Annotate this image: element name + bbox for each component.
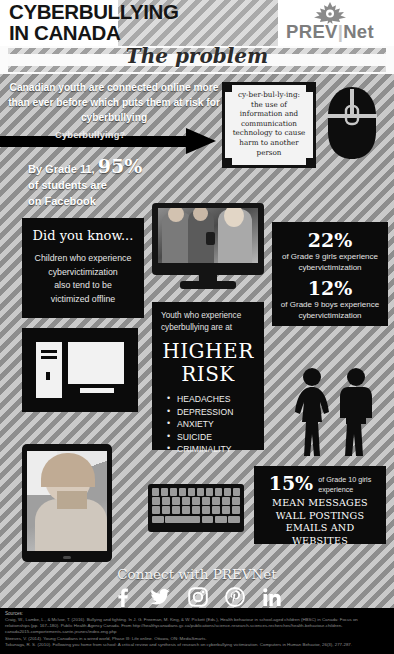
page-title: CYBERBULLYING IN CANADA [9,1,259,43]
facebook-icon[interactable] [112,587,132,607]
higher-risk-box: Youth who experience cyberbullying are a… [152,302,264,450]
monitor-screen-image [158,208,258,263]
stat-1-number: 12% [278,277,382,299]
intro-text: Canadian youth are connected online more… [8,80,220,125]
prevnet-wordmark: PREV|Net [274,23,386,41]
tower-slot-2 [41,356,57,359]
list-item: DEPRESSION [167,406,255,419]
box15-list-line3: EMAILS AND WEBSITES [261,522,379,547]
computer-mouse-icon [326,86,378,160]
sources-line: Tokunaga, R. S. (2010). Following you ho… [5,642,389,648]
tablet-screen-image [27,451,107,551]
monitor-photo [152,203,264,295]
risk-intro: Youth who experience cyberbullying are a… [161,310,255,334]
risk-headline-line1: HIGHER [161,340,255,363]
twitter-icon[interactable] [149,587,171,607]
definition-box: cy-ber-bul-ly-ing: the use of informatio… [222,82,316,168]
grade9-stats-box: 22% of Grade 9 girls experience cybervic… [272,222,388,326]
arrow-label-cyberbullying: Cyberbullying? [55,130,205,140]
dyk-line2: cybervictimization [30,266,136,280]
keyboard-row [152,516,240,524]
risk-intro-line1: Youth who experience [161,310,255,322]
box15-list: MEAN MESSAGES WALL POSTINGS EMAILS AND W… [261,497,379,547]
box15-top: 15% of Grade 10 girls experience [261,473,379,494]
tower-slot-1 [41,350,57,353]
computer-monitor-base [80,388,114,393]
grade10-girls-box: 15% of Grade 10 girls experience MEAN ME… [254,466,386,544]
risk-headline: HIGHER RISK [161,340,255,386]
grade11-line2: of students are [28,177,208,193]
section-title-the-problem: The problem [0,44,394,68]
list-item: CRIMINALITY [167,443,255,456]
box15-list-line1: MEAN MESSAGES [261,497,379,510]
grade11-number: 95% [98,155,143,177]
social-links [0,584,394,610]
stat-0-number: 22% [278,229,382,251]
logo-prev: PREV [286,21,338,42]
did-you-know-heading: Did you know... [30,228,136,243]
did-you-know-box: Did you know... Children who experience … [22,218,144,318]
female-male-silhouette-icon [288,366,384,458]
desktop-computer-icon [22,328,138,412]
did-you-know-body: Children who experience cybervictimizati… [30,252,136,306]
header: CYBERBULLYING IN CANADA PREV|Net [0,0,394,46]
box15-subtext: of Grade 10 girls experience [318,473,371,494]
box15-list-line2: WALL POSTINGS [261,510,379,523]
page-title-line2: IN CANADA [9,22,259,43]
notch-bottom-left [225,158,232,165]
keyboard-icon [148,484,244,532]
dyk-line3: also tend to be [30,279,136,293]
box15-subtext-line2: experience [318,485,353,494]
definition-body: the use of information and communication… [229,100,309,158]
sources-block: Sources: Craig, W., Lambe, L., & McIvor,… [0,608,394,654]
risk-list: HEADACHES DEPRESSION ANXIETY SUICIDE CRI… [161,393,255,456]
risk-headline-line2: RISK [161,363,255,386]
instagram-icon[interactable] [188,587,208,607]
connect-heading: Connect with PREVNet [0,566,394,582]
dyk-line4: victimized offline [30,293,136,307]
box15-subtext-line1: of Grade 10 girls [318,475,371,484]
definition-term: cy-ber-bul-ly-ing: [229,90,309,100]
linkedin-icon[interactable] [262,587,282,607]
dyk-line1: Children who experience [30,252,136,266]
stat-1-text: of Grade 9 boys experience cybervictimiz… [278,299,382,321]
notch-top-left [225,85,232,92]
prevnet-logo[interactable]: PREV|Net [274,2,386,44]
computer-monitor [68,342,124,384]
pinterest-icon[interactable] [225,587,245,607]
list-item: SUICIDE [167,431,255,444]
list-item: HEADACHES [167,393,255,406]
grade11-facebook-stat: By Grade 11, 95% of students are on Face… [28,158,208,209]
tower-power-button [46,372,50,380]
tablet-home-button [63,556,71,559]
notch-top-right [306,85,313,92]
box15-number: 15% [269,473,314,493]
logo-net: Net [343,21,374,42]
page-title-line1: CYBERBULLYING [9,1,259,22]
infographic-page: CYBERBULLYING IN CANADA PREV|Net The pro… [0,0,394,654]
notch-bottom-right [306,158,313,165]
keyboard-row [152,506,240,514]
definition-inner: cy-ber-bul-ly-ing: the use of informatio… [225,85,313,165]
monitor-base [180,281,236,289]
grade11-prefix: By Grade 11, [28,163,95,175]
keyboard-row [152,497,240,505]
list-item: ANXIETY [167,418,255,431]
stat-0-text: of Grade 9 girls experience cybervictimi… [278,251,382,273]
tablet-sad-girl-photo [22,444,112,562]
risk-intro-line2: cyberbullying are at [161,322,255,334]
keyboard-row [152,488,240,496]
